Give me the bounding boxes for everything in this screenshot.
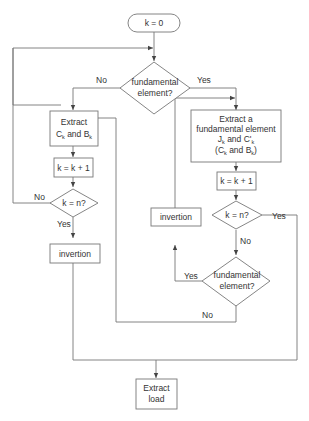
decision-bottom-line1: fundamental <box>214 270 261 280</box>
right-extract-line1: Extract a <box>219 114 253 124</box>
left-invertion-label: invertion <box>59 249 91 259</box>
label-left-check-no: No <box>34 192 45 202</box>
start-label: k = 0 <box>145 18 164 28</box>
node-left-increment: k = k + 1 <box>54 158 93 177</box>
node-start: k = 0 <box>128 14 180 32</box>
right-extract-line4: (Ck and Bk) <box>215 145 257 156</box>
node-right-extract: Extract a fundamental element Jk and C'k… <box>191 110 281 162</box>
right-extract-line2: fundamental element <box>196 124 276 134</box>
end-line2: load <box>148 394 164 404</box>
label-right-check-no: No <box>240 236 251 246</box>
label-top-yes: Yes <box>197 75 211 85</box>
label-left-check-yes: Yes <box>57 219 71 229</box>
edge-right-check-yes <box>262 215 297 360</box>
node-left-invertion: invertion <box>50 244 100 263</box>
right-increment-label: k = k + 1 <box>220 176 253 186</box>
node-right-increment: k = k + 1 <box>217 172 256 190</box>
label-top-no: No <box>96 75 107 85</box>
edge-top-no <box>73 88 122 110</box>
node-left-extract: Extract Ck and Bk <box>50 111 98 146</box>
node-decision-top: fundamental element? <box>120 62 190 114</box>
node-right-invertion: invertion <box>151 208 201 226</box>
end-line1: Extract <box>143 383 170 393</box>
label-bottom-yes: Yes <box>184 271 198 281</box>
node-left-check: k = n? <box>50 189 98 217</box>
left-increment-label: k = k + 1 <box>57 163 90 173</box>
right-check-label: k = n? <box>225 210 249 220</box>
decision-top-line2: element? <box>138 88 173 98</box>
edge-left-check-no <box>13 48 51 203</box>
node-end: Extract load <box>136 379 177 409</box>
left-extract-line2: Ck and Bk <box>56 129 92 140</box>
label-bottom-no: No <box>202 310 213 320</box>
decision-top-line1: fundamental <box>132 77 179 87</box>
edge-top-yes <box>187 88 236 110</box>
right-invertion-label: invertion <box>160 212 192 222</box>
label-right-check-yes: Yes <box>272 211 286 221</box>
node-right-check: k = n? <box>212 201 262 229</box>
flowchart: k = 0 fundamental element? No Yes Extrac… <box>0 0 309 421</box>
left-check-label: k = n? <box>62 198 86 208</box>
node-decision-bottom: fundamental element? <box>202 257 270 306</box>
left-extract-line1: Extract <box>61 117 88 127</box>
decision-bottom-line2: element? <box>220 281 255 291</box>
